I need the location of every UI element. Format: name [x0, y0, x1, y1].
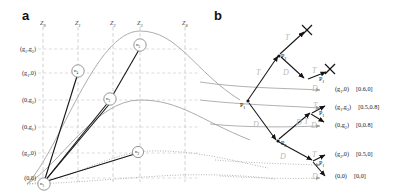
node-label-n5: n5 [136, 42, 140, 49]
z-label-3: Z3 [137, 19, 143, 28]
panel-a-flow-curves [27, 31, 275, 184]
edge-p2-terminal-x1 [280, 32, 304, 54]
outcome-payoff-2: [0,0.8] [356, 121, 373, 128]
edge-label-d-6: D [280, 152, 286, 161]
decision-node-label-p2-lower: P2 [281, 140, 286, 148]
z-label-0: Z0 [40, 19, 46, 28]
outcome-payoff-1: [0.5,0.8] [358, 103, 379, 110]
node-label-n4: n4 [74, 68, 78, 75]
edge-p1-p2-up [248, 56, 278, 100]
decision-node-label-p1-root: P1 [240, 102, 245, 110]
node-label-n2: n2 [135, 149, 139, 156]
y-label-0: (g1,g2) [0, 45, 36, 54]
edge-label-d-1: D [283, 68, 289, 77]
edge-label-d-2: D [312, 84, 318, 93]
outcome-payoff-4: [0,0] [354, 172, 366, 179]
edge-label-t-3: T [312, 66, 316, 75]
y-label-1: (g1,0) [0, 69, 36, 78]
outcome-payoff-3: [0.5,0] [356, 150, 373, 157]
edge-label-t-4: T [313, 101, 317, 110]
panel-b-flow-curves [200, 82, 320, 178]
panel-b-terminals [302, 25, 335, 74]
edge-label-d-5: D [311, 121, 317, 130]
y-label-2: (0,g2) [0, 96, 36, 105]
decision-node-label-p2-upper: P2 [281, 53, 286, 61]
figure-container: a b Z0 Z1 Z2 Z3 Z4 (g1,g2) (g1,0) (0,g2)… [0, 0, 396, 195]
edge-n1-n2 [44, 73, 78, 182]
y-label-4: (g2,0) [0, 149, 36, 158]
edge-n3-n4 [110, 48, 140, 100]
curve-upper [27, 31, 240, 184]
panel-a-vertical-gridlines [43, 27, 185, 182]
outcome-row-3: (g2,0) [0.5,0] [335, 150, 373, 159]
outcome-row-2: (0,g2) [0,0.8] [335, 121, 373, 130]
panel-a-trajectory-edges [44, 48, 140, 182]
edge-label-d-7: D [312, 172, 318, 181]
decision-node-label-p1-c: P1 [319, 160, 324, 168]
outcome-payoff-0: [0.6,0] [356, 85, 373, 92]
outcome-row-4: (0,0) [0,0] [335, 172, 366, 179]
edge-label-t-2: T [256, 68, 260, 77]
terminal-x-1 [302, 25, 312, 35]
panel-b-decision-dots [246, 54, 280, 142]
decision-node-label-p1-b: P1 [319, 110, 324, 118]
edge-label-d-3: D [253, 120, 259, 129]
curve-mid [27, 100, 250, 184]
z-label-1: Z1 [75, 19, 81, 28]
node-label-n3: n3 [106, 96, 110, 103]
outcome-row-0: (g1,0) [0.6,0] [335, 85, 373, 94]
decision-node-label-p1-a: P1 [319, 76, 324, 84]
outcome-state-4: (0,0) [335, 172, 347, 179]
edge-label-d-4: D [296, 118, 302, 127]
figure-canvas [0, 0, 396, 195]
terminal-x-2 [325, 64, 335, 74]
edge-label-t-5: T [304, 117, 308, 126]
node-label-n1: n1 [40, 181, 44, 188]
y-label-3: (0,g1) [0, 123, 36, 132]
panel-b-letter: b [214, 8, 222, 23]
curve-low [27, 151, 268, 184]
panel-a-letter: a [22, 8, 29, 23]
outcome-state-2: (0,g2) [335, 121, 349, 128]
outcome-state-1: (g1,g2) [335, 103, 351, 110]
edge-label-t-6: T [312, 150, 316, 159]
outcome-state-0: (g1,0) [335, 85, 349, 92]
edge-label-t-1: T [285, 33, 289, 42]
y-label-5: (0,0) [0, 174, 36, 181]
outcome-row-1: (g1,g2) [0.5,0.8] [335, 103, 379, 112]
z-label-2: Z2 [110, 19, 116, 28]
z-label-4: Z4 [182, 19, 188, 28]
outcome-state-3: (g2,0) [335, 150, 349, 157]
